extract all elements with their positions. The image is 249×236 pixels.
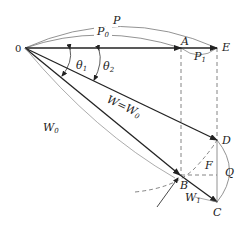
label-q: Q bbox=[225, 166, 234, 179]
label-w1: W1 bbox=[185, 191, 201, 205]
label-d: D bbox=[221, 134, 231, 147]
label-e: E bbox=[221, 41, 230, 54]
label-p: P bbox=[112, 14, 121, 27]
label-f: F bbox=[204, 159, 213, 172]
angle-arc-theta2 bbox=[94, 50, 100, 80]
label-p1: P1 bbox=[193, 50, 206, 64]
angle-arc-theta1 bbox=[62, 49, 71, 76]
vector-diagram: P P0 0 A E P1 θ1 θ2 W=W0 W0 D F Q B W1 C bbox=[0, 0, 249, 236]
dimension-line-w0 bbox=[25, 48, 175, 178]
force-arrow-b bbox=[157, 178, 178, 207]
label-w-eq-w0: W=W0 bbox=[104, 93, 143, 121]
label-theta2: θ2 bbox=[103, 60, 115, 74]
label-theta1: θ1 bbox=[76, 59, 87, 73]
label-a: A bbox=[180, 35, 189, 48]
label-c: C bbox=[213, 206, 222, 219]
label-origin: 0 bbox=[15, 43, 21, 54]
